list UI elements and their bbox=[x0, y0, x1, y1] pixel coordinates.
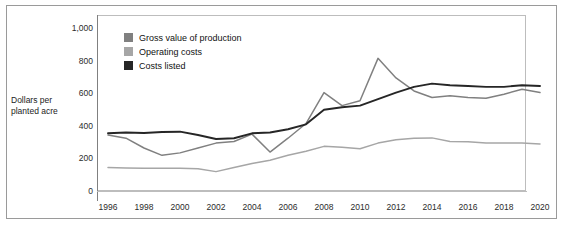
y-axis-tick-1000: 1,000 bbox=[47, 24, 93, 33]
legend-item-0: Gross value of production bbox=[124, 31, 354, 44]
legend-label-2: Costs listed bbox=[139, 61, 186, 71]
y-axis-tick-400: 400 bbox=[47, 122, 93, 131]
y-axis-line bbox=[97, 15, 98, 201]
x-axis-line bbox=[97, 191, 527, 192]
x-axis-tick-1996: 1996 bbox=[99, 202, 118, 212]
x-axis-tick-2004: 2004 bbox=[243, 202, 262, 212]
chart-figure: Dollars per planted acre 1,0008006004002… bbox=[6, 5, 557, 219]
x-axis-tick-2020: 2020 bbox=[531, 202, 550, 212]
x-axis-tick-2018: 2018 bbox=[495, 202, 514, 212]
chart-legend: Gross value of productionOperating costs… bbox=[124, 31, 354, 73]
x-axis-tick-2002: 2002 bbox=[207, 202, 226, 212]
y-axis-tick-600: 600 bbox=[47, 89, 93, 98]
x-axis-tick-2014: 2014 bbox=[423, 202, 442, 212]
y-axis-tick-200: 200 bbox=[47, 154, 93, 163]
y-axis-tick-labels: 1,0008006004002000 bbox=[43, 6, 93, 206]
legend-label-0: Gross value of production bbox=[139, 33, 242, 43]
x-axis-tick-2006: 2006 bbox=[279, 202, 298, 212]
y-axis-tick-0: 0 bbox=[47, 187, 93, 196]
y-axis-tick-800: 800 bbox=[47, 57, 93, 66]
legend-swatch-costs-listed bbox=[124, 61, 133, 70]
x-axis-tick-2016: 2016 bbox=[459, 202, 478, 212]
x-axis-tick-2010: 2010 bbox=[351, 202, 370, 212]
legend-swatch-operating-costs bbox=[124, 47, 133, 56]
x-axis-tick-labels: 1996199820002002200420062008201020122014… bbox=[97, 202, 533, 216]
legend-item-2: Costs listed bbox=[124, 59, 354, 72]
x-axis-tick-1998: 1998 bbox=[135, 202, 154, 212]
legend-label-1: Operating costs bbox=[139, 47, 202, 57]
x-axis-tick-2008: 2008 bbox=[315, 202, 334, 212]
legend-swatch-gross-value bbox=[124, 33, 133, 42]
legend-item-1: Operating costs bbox=[124, 45, 354, 58]
x-axis-tick-2000: 2000 bbox=[171, 202, 190, 212]
x-axis-tick-2012: 2012 bbox=[387, 202, 406, 212]
